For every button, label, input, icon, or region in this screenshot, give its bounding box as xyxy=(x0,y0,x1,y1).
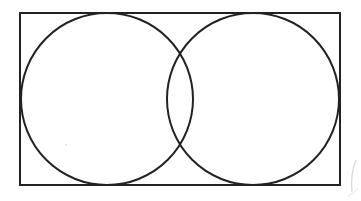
venn-diagram xyxy=(0,0,361,201)
universe-rectangle xyxy=(20,13,340,185)
scan-artifact-speck xyxy=(65,144,67,146)
scan-artifact-curl-lower xyxy=(348,188,358,196)
scan-artifact-curl xyxy=(352,160,357,192)
venn-diagram-canvas xyxy=(0,0,361,201)
